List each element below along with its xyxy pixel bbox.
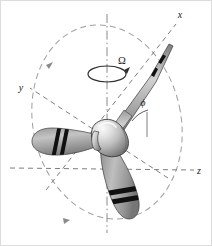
omega-label: Ω: [118, 55, 126, 66]
axis-label-x: x: [177, 9, 183, 20]
axis-label-z: z: [196, 165, 201, 176]
propeller-figure: x y z Ω ϕ: [0, 0, 212, 246]
phi-label: ϕ: [141, 98, 146, 108]
propeller-diagram-canvas: x y z Ω ϕ: [0, 0, 212, 246]
axis-label-y: y: [18, 82, 24, 93]
